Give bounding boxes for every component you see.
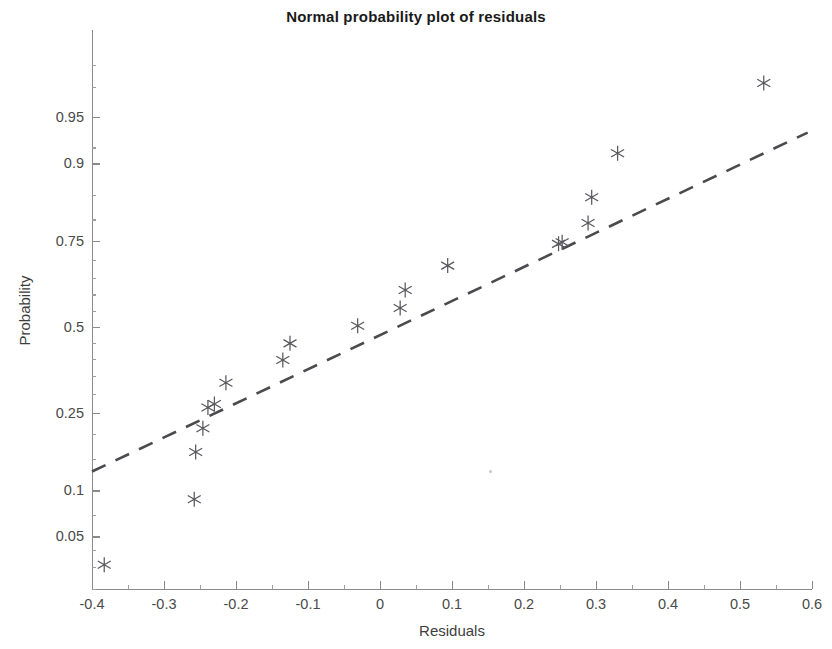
data-point-marker [276, 352, 289, 367]
data-layer [0, 0, 832, 649]
data-point-marker [399, 283, 412, 298]
data-point-marker [188, 492, 201, 507]
data-point-marker [351, 318, 364, 333]
normal-probability-plot-figure: Normal probability plot of residuals 0.0… [0, 0, 832, 649]
data-point-markers [98, 75, 771, 572]
data-point-marker [757, 75, 770, 90]
data-point-marker [189, 444, 202, 459]
data-point-marker [394, 301, 407, 316]
data-point-marker [585, 190, 598, 205]
data-point-marker [582, 215, 595, 230]
reference-line [92, 133, 808, 472]
data-point-marker [284, 336, 297, 351]
data-point-marker [219, 375, 232, 390]
data-point-marker [98, 557, 111, 572]
data-point-marker [611, 146, 624, 161]
data-point-marker [196, 421, 209, 436]
data-point-marker [441, 258, 454, 273]
